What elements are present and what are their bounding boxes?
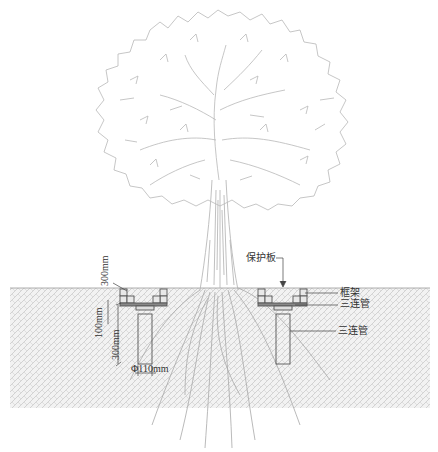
label-triple-pipe-top: 三连管 [340,299,370,309]
dim-depth-pipe: 300mm [111,329,121,360]
label-protection-board: 保护板 [246,253,276,263]
dim-depth-frame: 100mm [94,307,104,338]
dim-depth-top: 300mm [100,255,110,286]
diagram-canvas [0,0,438,452]
tree-trunk [200,180,238,290]
label-triple-pipe-side: 三连管 [338,326,368,336]
label-frame: 框架 [340,288,360,298]
dim-pipe-diameter: Φ110mm [131,364,169,374]
tree-canopy [96,10,348,210]
tree-planting-diagram: 保护板 框架 三连管 三连管 300mm 100mm 300mm Φ110mm [0,0,438,452]
